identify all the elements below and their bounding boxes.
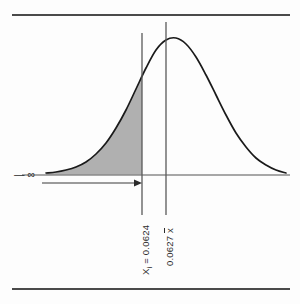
xbar-symbol: x <box>164 228 175 233</box>
neg-infinity-arrow-head <box>134 180 142 187</box>
shaded-tail-region <box>46 76 142 175</box>
xi-subscript: i <box>145 267 154 269</box>
xbar-value: 0.0627 <box>164 236 175 266</box>
xi-axis-label: Xi = 0.0624 <box>140 225 154 275</box>
neg-infinity-label: — ∞ <box>14 168 35 180</box>
xi-equals: = <box>140 258 151 264</box>
normal-distribution-figure: — ∞ Xi = 0.0624 0.0627 x <box>0 0 300 304</box>
xi-symbol: X <box>140 268 151 275</box>
xi-value: 0.0624 <box>140 225 151 255</box>
xbar-axis-label: 0.0627 x <box>164 228 175 266</box>
